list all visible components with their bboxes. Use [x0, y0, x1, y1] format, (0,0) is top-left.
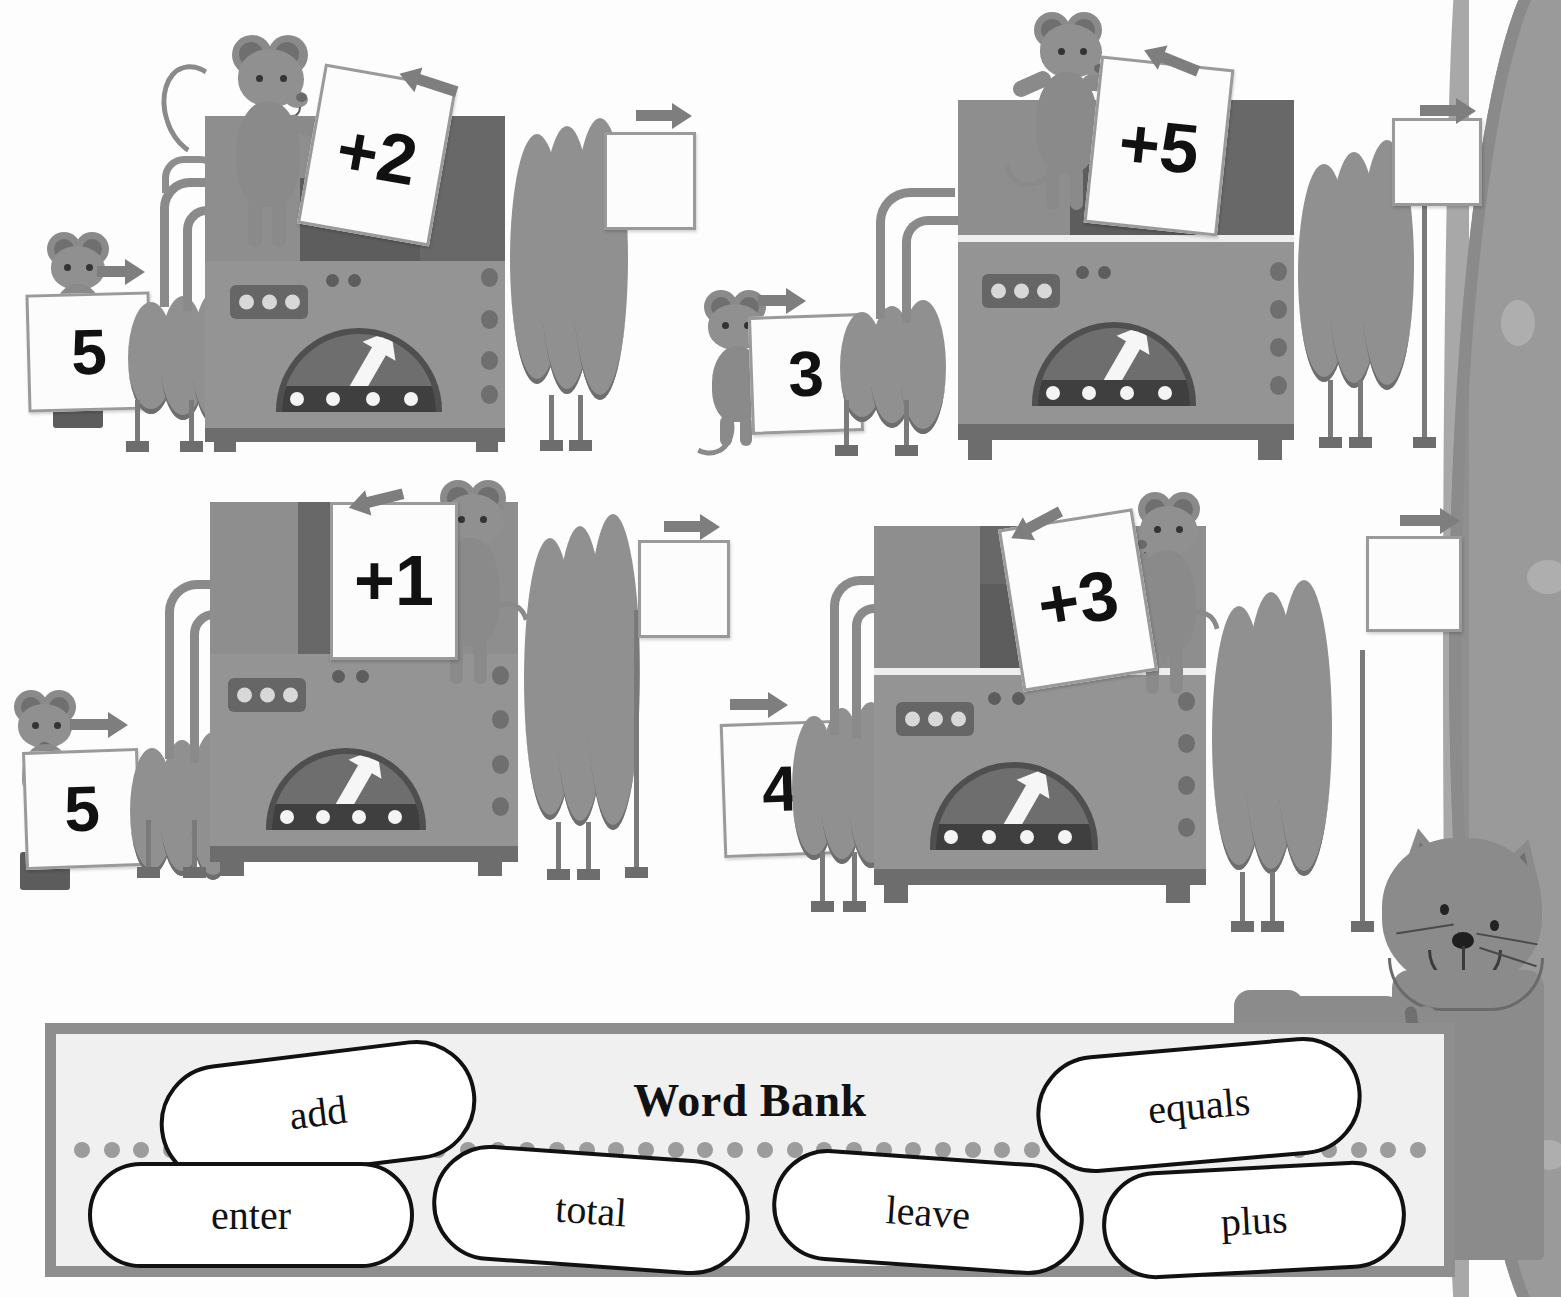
word-pill-leave[interactable]: leave: [768, 1145, 1087, 1278]
output-card-4: [1366, 536, 1462, 632]
input-arrow-4: [730, 692, 788, 718]
output-arrow-4: [1400, 508, 1460, 534]
output-arrow-2: [1420, 98, 1476, 124]
input-arrow-3: [70, 712, 128, 738]
word-pill-plus[interactable]: plus: [1099, 1158, 1408, 1282]
word-bank-panel: Word Bank add equals enter total leave p…: [45, 1023, 1455, 1277]
indicator-panel-3: [228, 678, 306, 712]
word-pill-total[interactable]: total: [428, 1141, 753, 1279]
indicator-panel-2: [982, 274, 1060, 308]
machine-pipe-2b: [902, 216, 959, 323]
input-card-3: 5: [22, 748, 142, 870]
machine-2: 3: [680, 0, 1510, 490]
machine-3: 5: [0, 470, 760, 940]
indicator-panel-4: [896, 702, 974, 736]
output-card-2: [1392, 118, 1482, 206]
operation-card-2: +5: [1084, 55, 1235, 236]
machine-1: 5: [0, 10, 720, 470]
input-arrow-2: [758, 288, 806, 314]
indicator-panel-1: [230, 285, 308, 319]
worksheet-page: 5: [0, 0, 1561, 1297]
word-pill-enter[interactable]: enter: [88, 1162, 414, 1268]
operation-card-3: +1: [330, 502, 458, 660]
input-arrow-1: [97, 259, 145, 285]
